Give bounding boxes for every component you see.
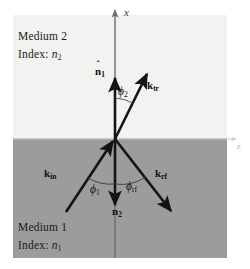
medium-1-index: Index: n1 xyxy=(18,239,62,253)
medium-1-name: Medium 1 xyxy=(18,221,67,233)
reflection-angle-subscript: rf xyxy=(132,185,137,194)
reflection-angle-label: ϕrf xyxy=(126,180,137,194)
transmission-angle-subscript: 2 xyxy=(124,90,128,99)
x-axis-label: x xyxy=(124,6,129,18)
hat-accent-n2: ˆ xyxy=(113,199,116,210)
refraction-diagram: Medium 2 Index: n2 Medium 1 Index: n1 x … xyxy=(0,0,250,269)
normal-up-subscript: 1 xyxy=(101,70,105,79)
z-axis-label: z xyxy=(237,141,241,151)
transmitted-wave-label: ktr xyxy=(147,79,159,93)
transmitted-subscript: tr xyxy=(153,84,159,93)
incident-wave-label: kin xyxy=(44,167,56,181)
normal-up-label: ˆn1 xyxy=(95,65,105,79)
medium-1-index-prefix: Index: xyxy=(18,239,49,251)
incident-subscript: in xyxy=(50,172,56,181)
medium-2-index-subscript: 2 xyxy=(58,53,62,62)
incidence-angle-label: ϕ1 xyxy=(90,183,100,197)
transmission-angle-label: ϕ2 xyxy=(118,85,128,99)
incidence-angle-subscript: 1 xyxy=(96,188,100,197)
medium-2-index-prefix: Index: xyxy=(18,48,49,60)
medium-2-name: Medium 2 xyxy=(18,30,67,42)
hat-accent-n1: ˆ xyxy=(96,59,99,70)
normal-down-label: ˆn2 xyxy=(112,205,122,219)
medium-2-index: Index: n2 xyxy=(18,48,62,62)
normal-down-subscript: 2 xyxy=(118,210,122,219)
reflected-subscript: rf xyxy=(161,172,167,181)
medium-1-index-subscript: 1 xyxy=(58,244,62,253)
reflected-wave-label: krf xyxy=(155,167,167,181)
